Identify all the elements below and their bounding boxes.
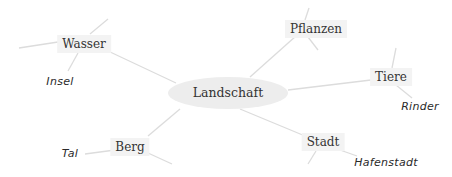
node-rinder[interactable]: Rinder	[401, 100, 439, 113]
link-landschaft-tiere	[288, 80, 371, 90]
link-wasser-stub-left	[19, 42, 58, 48]
link-landschaft-stadt	[240, 109, 305, 136]
link-pflanzen-stub-up	[305, 8, 309, 20]
link-pflanzen-stub-down	[308, 37, 318, 50]
node-stadt[interactable]: Stadt	[302, 133, 345, 151]
link-landschaft-pflanzen	[250, 36, 296, 77]
link-wasser-stub-up	[90, 19, 108, 34]
link-tiere-rinder	[396, 85, 412, 98]
link-wasser-insel	[68, 53, 78, 71]
node-tiere[interactable]: Tiere	[370, 68, 412, 86]
node-landschaft[interactable]: Landschaft	[168, 77, 288, 109]
node-insel[interactable]: Insel	[46, 75, 73, 88]
link-landschaft-berg	[148, 109, 180, 136]
link-tiere-stub-up	[392, 48, 396, 68]
mindmap-canvas: Landschaft Wasser Insel Pflanzen Tiere R…	[0, 0, 452, 177]
node-tal[interactable]: Tal	[62, 147, 78, 160]
link-landschaft-wasser	[108, 51, 176, 83]
node-hafenstadt[interactable]: Hafenstadt	[354, 156, 418, 169]
link-berg-stub-down	[148, 153, 172, 164]
link-stadt-stub-down	[308, 151, 316, 164]
node-pflanzen[interactable]: Pflanzen	[285, 20, 347, 38]
node-wasser[interactable]: Wasser	[57, 35, 111, 53]
node-berg[interactable]: Berg	[110, 138, 149, 156]
